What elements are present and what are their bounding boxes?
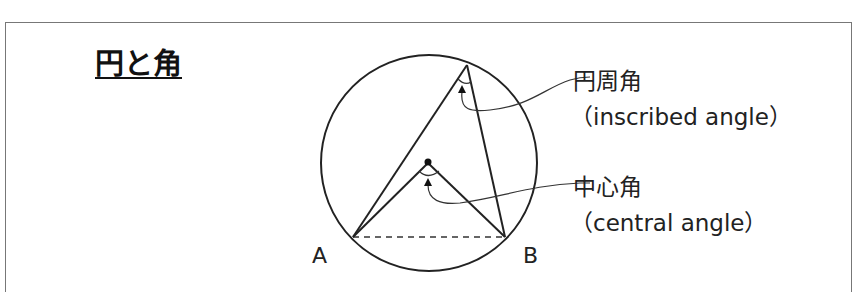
- inscribed-angle-label-jp: 円周角: [573, 62, 642, 96]
- inscribed-line-b: [467, 65, 505, 237]
- central-arrowhead-icon: [424, 178, 432, 186]
- central-angle-label-jp: 中心角: [573, 168, 642, 202]
- point-a-label: A: [312, 243, 327, 268]
- central-angle-label-en: （central angle）: [570, 204, 767, 238]
- inscribed-angle-arc: [458, 79, 471, 83]
- central-line-a: [353, 163, 428, 237]
- central-line-b: [428, 163, 505, 237]
- center-dot: [425, 159, 432, 166]
- inscribed-line-a: [353, 65, 467, 237]
- point-b-label: B: [523, 243, 538, 268]
- inscribed-angle-label-en: （inscribed angle）: [570, 98, 792, 132]
- inscribed-arrowhead-icon: [458, 85, 466, 93]
